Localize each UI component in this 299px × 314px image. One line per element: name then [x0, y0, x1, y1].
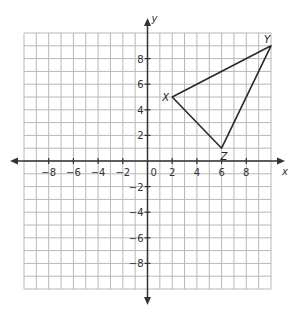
- triangle-xyz: XYZ: [161, 34, 271, 162]
- y-tick-label: −2: [129, 182, 144, 193]
- x-tick-label: 4: [194, 167, 200, 178]
- x-axis-left-arrow-icon: [10, 158, 18, 165]
- x-tick-label: 6: [218, 167, 224, 178]
- x-tick-label: −4: [91, 167, 106, 178]
- y-axis-up-arrow-icon: [144, 18, 151, 26]
- y-tick-label: 6: [137, 79, 143, 90]
- y-tick-label: −4: [129, 207, 144, 218]
- x-tick-label: 2: [169, 167, 175, 178]
- y-tick-label: −8: [129, 258, 144, 269]
- y-tick-label: 8: [137, 54, 143, 65]
- x-axis-right-arrow-icon: [277, 158, 285, 165]
- x-tick-label: −8: [41, 167, 56, 178]
- vertex-label-y: Y: [264, 34, 271, 45]
- vertex-label-x: X: [161, 92, 170, 103]
- vertex-label-z: Z: [220, 151, 229, 162]
- coordinate-plane: xy −8−6−4−224688642−2−4−6−80 XYZ: [0, 0, 299, 314]
- y-axis-label: y: [151, 13, 159, 24]
- y-tick-label: 4: [137, 105, 143, 116]
- x-tick-label: 8: [243, 167, 249, 178]
- x-axis-label: x: [281, 166, 288, 177]
- y-tick-label: −6: [129, 233, 144, 244]
- x-tick-label: −2: [115, 167, 130, 178]
- y-axis-down-arrow-icon: [144, 297, 151, 305]
- y-tick-label: 2: [137, 130, 143, 141]
- origin-label: 0: [151, 167, 157, 178]
- x-tick-label: −6: [66, 167, 81, 178]
